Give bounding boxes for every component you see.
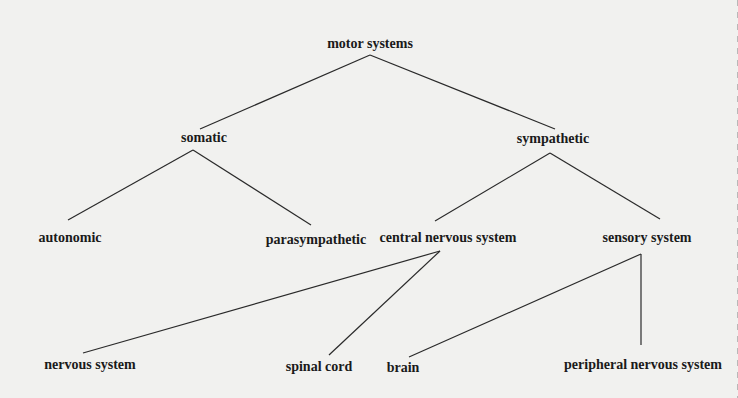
node-nervous-system: nervous system xyxy=(44,357,135,373)
edge-sensory-brain xyxy=(409,254,641,357)
node-spinal-cord: spinal cord xyxy=(286,359,353,375)
node-autonomic: autonomic xyxy=(39,230,102,246)
edge-somatic-autonomic xyxy=(68,150,193,220)
edge-motor-sympathetic xyxy=(370,55,555,129)
node-sensory-system: sensory system xyxy=(602,230,691,246)
edge-sympathetic-sensory xyxy=(550,153,660,219)
node-central-nervous-system: central nervous system xyxy=(380,230,517,246)
edge-motor-somatic xyxy=(200,55,370,129)
node-brain: brain xyxy=(387,360,420,376)
node-sympathetic: sympathetic xyxy=(517,131,589,147)
node-parasympathetic: parasympathetic xyxy=(266,232,366,248)
tree-edges xyxy=(0,0,738,398)
edge-somatic-parasympathetic xyxy=(193,150,311,225)
node-motor-systems: motor systems xyxy=(327,36,413,52)
edge-sympathetic-cns xyxy=(435,153,550,221)
edge-cns-nervous-system xyxy=(83,251,440,353)
node-peripheral-nervous-system: peripheral nervous system xyxy=(564,357,722,373)
node-somatic: somatic xyxy=(181,130,227,146)
